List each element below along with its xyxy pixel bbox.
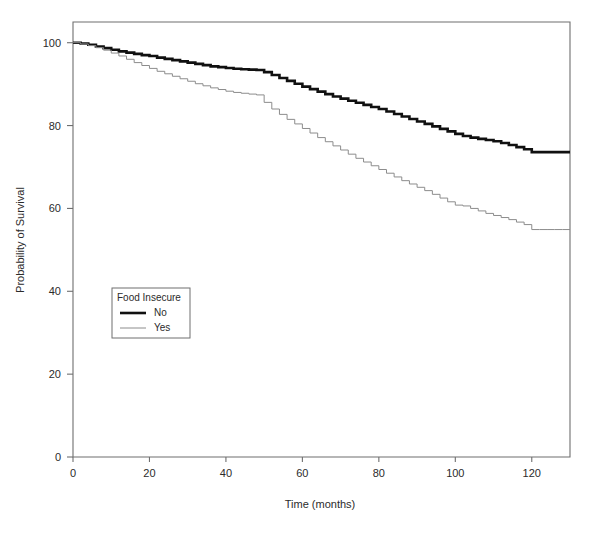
x-tick-label: 60 (296, 467, 308, 479)
y-tick-label: 40 (49, 285, 61, 297)
survival-curve-no (73, 43, 570, 152)
y-tick-label: 60 (49, 202, 61, 214)
chart-canvas: 020406080100120 020406080100 Time (month… (0, 0, 590, 538)
survival-curve-yes (73, 43, 570, 230)
legend-label-yes: Yes (154, 322, 170, 333)
legend: Food InsecureNoYes (112, 288, 190, 338)
survival-curve-figure: 020406080100120 020406080100 Time (month… (0, 0, 590, 538)
x-axis-title: Time (months) (285, 498, 356, 510)
x-tick-label: 80 (373, 467, 385, 479)
x-tick-label: 100 (446, 467, 464, 479)
x-tick-label: 20 (143, 467, 155, 479)
y-tick-label: 100 (43, 37, 61, 49)
y-axis-ticks: 020406080100 (43, 37, 73, 463)
x-tick-label: 0 (70, 467, 76, 479)
legend-title: Food Insecure (117, 292, 181, 303)
y-axis-title: Probability of Survival (14, 187, 26, 293)
y-tick-label: 80 (49, 120, 61, 132)
x-axis-ticks: 020406080100120 (70, 457, 541, 479)
x-tick-label: 120 (523, 467, 541, 479)
y-tick-label: 0 (55, 451, 61, 463)
legend-label-no: No (154, 307, 167, 318)
y-tick-label: 20 (49, 368, 61, 380)
plot-frame (73, 22, 570, 457)
data-series-group (73, 43, 570, 230)
x-tick-label: 40 (220, 467, 232, 479)
